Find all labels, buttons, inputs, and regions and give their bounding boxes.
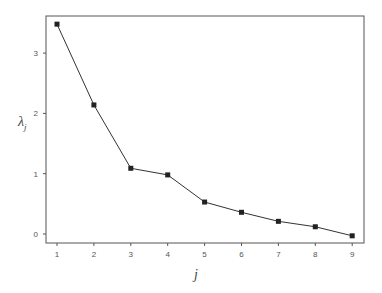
scree-plot: 0123 123456789 λj j <box>0 0 382 293</box>
y-tick-label: 2 <box>34 109 39 118</box>
x-axis-label: j <box>192 267 198 282</box>
x-axis-ticks: 123456789 <box>55 243 355 259</box>
data-markers <box>55 22 355 239</box>
data-point-marker <box>165 172 170 177</box>
x-tick-label: 9 <box>350 250 355 259</box>
data-point-marker <box>276 219 281 224</box>
plot-frame <box>46 16 364 243</box>
x-tick-label: 5 <box>202 250 207 259</box>
data-point-marker <box>55 22 60 27</box>
y-tick-label: 0 <box>34 230 39 239</box>
y-axis-label: λj <box>17 114 27 132</box>
x-tick-label: 2 <box>92 250 97 259</box>
data-point-marker <box>239 210 244 215</box>
x-tick-label: 6 <box>239 250 244 259</box>
data-point-marker <box>128 166 133 171</box>
data-point-marker <box>313 224 318 229</box>
x-tick-label: 7 <box>276 250 281 259</box>
y-tick-label: 1 <box>34 170 39 179</box>
y-tick-label: 3 <box>34 49 39 58</box>
x-tick-label: 4 <box>165 250 170 259</box>
data-point-marker <box>91 102 96 107</box>
x-tick-label: 3 <box>129 250 134 259</box>
y-axis-ticks: 0123 <box>34 49 46 239</box>
x-tick-label: 1 <box>55 250 60 259</box>
data-point-marker <box>350 233 355 238</box>
x-tick-label: 8 <box>313 250 318 259</box>
data-point-marker <box>202 200 207 205</box>
